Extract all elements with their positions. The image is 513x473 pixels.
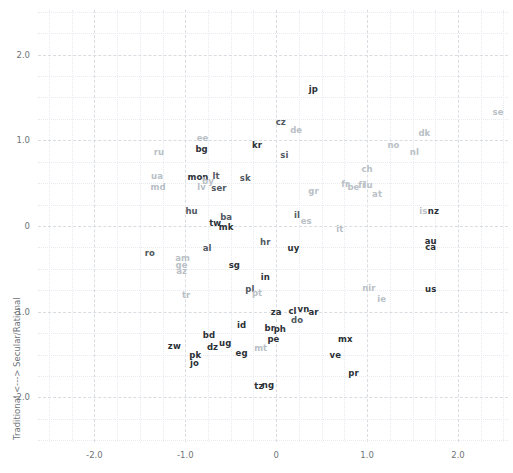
gridline xyxy=(38,355,508,356)
data-point-label: ser xyxy=(211,184,226,193)
x-tick-label: -1.0 xyxy=(177,450,194,460)
data-point-label: ca xyxy=(425,243,436,252)
y-tick-label: 1.0 xyxy=(16,135,30,145)
data-point-label: ba xyxy=(220,213,232,222)
data-point-label: mt xyxy=(254,343,267,352)
data-point-label: dk xyxy=(418,128,430,137)
y-axis-label: Traditional <---> Secular/Rational xyxy=(12,298,22,441)
data-point-label: ru xyxy=(154,148,164,157)
data-point-label: kr xyxy=(252,141,262,150)
data-point-label: de xyxy=(290,126,302,135)
gridline xyxy=(38,140,508,141)
data-point-label: mk xyxy=(219,223,234,232)
scatter-chart: sejpczdedkeekrnobgnlrusichuamonltskbyfrf… xyxy=(0,0,513,473)
data-point-label: cz xyxy=(276,118,286,127)
y-tick-label: -1.0 xyxy=(13,307,30,317)
data-point-label: bd xyxy=(203,331,215,340)
data-point-label: sg xyxy=(229,261,240,270)
data-point-label: ug xyxy=(219,339,231,348)
data-point-label: pe xyxy=(267,335,279,344)
gridline xyxy=(38,269,508,270)
y-tick-label: 0 xyxy=(25,221,30,231)
data-point-label: do xyxy=(291,316,303,325)
gridline xyxy=(38,97,508,98)
data-point-label: cl xyxy=(288,307,296,316)
data-point-label: ph xyxy=(274,325,286,334)
data-point-label: es xyxy=(301,217,312,226)
gridline xyxy=(38,397,508,398)
data-point-label: ie xyxy=(377,295,386,304)
data-point-label: dz xyxy=(207,343,218,352)
gridline xyxy=(38,55,508,56)
data-point-label: za xyxy=(271,307,282,316)
data-point-label: sk xyxy=(240,174,251,183)
data-point-label: lu xyxy=(363,181,372,190)
y-tick-label: -2.0 xyxy=(13,392,30,402)
gridline xyxy=(38,247,508,248)
data-point-label: al xyxy=(203,244,212,253)
data-point-label: ng xyxy=(262,380,274,389)
x-tick-label: 2.0 xyxy=(451,450,465,460)
gridline xyxy=(38,12,508,13)
gridline xyxy=(38,290,508,291)
gridline xyxy=(38,33,508,34)
gridline xyxy=(38,76,508,77)
data-point-label: id xyxy=(237,321,246,330)
data-point-label: ve xyxy=(330,350,342,359)
data-point-label: be xyxy=(347,183,359,192)
data-point-label: se xyxy=(492,108,503,117)
data-point-label: ro xyxy=(145,249,155,258)
data-point-label: ua xyxy=(151,172,163,181)
x-tick-label: 0 xyxy=(273,450,278,460)
data-point-label: az xyxy=(176,267,187,276)
gridline xyxy=(38,376,508,377)
data-point-label: nz xyxy=(428,207,439,216)
x-tick-label: 1.0 xyxy=(360,450,374,460)
data-point-label: tr xyxy=(182,291,190,300)
data-point-label: at xyxy=(372,190,382,199)
data-point-label: us xyxy=(425,284,436,293)
data-point-label: no xyxy=(387,140,399,149)
data-point-label: eg xyxy=(236,349,248,358)
data-point-label: hr xyxy=(260,238,270,247)
y-tick-label: 2.0 xyxy=(16,50,30,60)
data-point-label: zw xyxy=(168,342,181,351)
data-point-label: il xyxy=(294,211,300,220)
data-point-label: is xyxy=(419,206,427,215)
gridline xyxy=(38,183,508,184)
gridline xyxy=(38,119,508,120)
gridline xyxy=(38,440,508,441)
data-point-label: nir xyxy=(362,283,375,292)
data-point-label: bg xyxy=(195,145,207,154)
data-point-label: pt xyxy=(252,289,262,298)
data-point-label: ar xyxy=(308,307,318,316)
data-point-label: it xyxy=(336,224,343,233)
data-point-label: ch xyxy=(361,165,372,174)
data-point-label: hu xyxy=(185,207,197,216)
data-point-label: gr xyxy=(308,187,318,196)
data-point-label: pr xyxy=(348,368,358,377)
data-point-label: mx xyxy=(338,335,353,344)
data-point-label: uy xyxy=(288,244,300,253)
data-point-label: lv xyxy=(197,183,206,192)
data-point-label: jo xyxy=(190,359,199,368)
gridline xyxy=(38,162,508,163)
data-point-label: jp xyxy=(309,85,318,94)
gridline xyxy=(38,226,508,227)
data-point-label: ee xyxy=(197,133,209,142)
x-tick-label: -2.0 xyxy=(86,450,103,460)
data-point-label: si xyxy=(280,151,288,160)
data-point-label: in xyxy=(261,272,270,281)
data-point-label: nl xyxy=(410,148,419,157)
gridline xyxy=(38,419,508,420)
data-point-label: md xyxy=(150,182,165,191)
plot-area: sejpczdedkeekrnobgnlrusichuamonltskbyfrf… xyxy=(38,10,508,442)
